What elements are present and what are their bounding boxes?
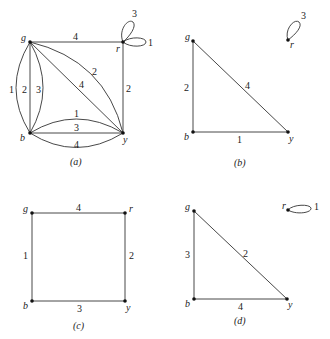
edge-g-y <box>193 41 288 132</box>
node-b <box>191 130 195 134</box>
node-label-b: b <box>185 298 190 309</box>
node-label-y: y <box>122 134 128 145</box>
caption-b: (b) <box>234 157 246 169</box>
caption-c: (c) <box>73 320 85 332</box>
node-g <box>30 211 34 215</box>
edge-g-y <box>194 211 287 299</box>
node-g <box>28 40 32 44</box>
node-label-y: y <box>125 302 131 313</box>
edge-label: 4 <box>76 202 81 213</box>
edge-label: 1 <box>23 250 28 261</box>
node-label-y: y <box>287 299 293 310</box>
caption-d: (d) <box>234 315 246 327</box>
panel-d: 3 2 4 1 g r b y (d) <box>185 200 319 327</box>
node-label-g: g <box>185 31 190 42</box>
edge-label: 2 <box>126 83 131 94</box>
node-label-r: r <box>282 200 286 211</box>
edge-label: 1 <box>148 37 153 48</box>
edge-label: 2 <box>22 84 27 95</box>
edge-label: 1 <box>314 201 319 212</box>
edge-label: 1 <box>74 108 79 119</box>
edge-label: 2 <box>184 82 189 93</box>
panel-a: 4 2 1 2 3 4 2 1 3 4 3 1 g r b y (a) <box>9 8 153 168</box>
loop-r-3 <box>287 21 300 40</box>
node-label-b: b <box>184 131 189 142</box>
edge-label: 3 <box>74 122 79 133</box>
node-label-r: r <box>290 39 294 50</box>
node-r <box>123 211 127 215</box>
loop-r-1 <box>288 205 311 213</box>
edge-label: 4 <box>74 139 79 150</box>
edge-label: 1 <box>237 134 242 145</box>
node-b <box>192 297 196 301</box>
node-label-g: g <box>21 32 26 43</box>
edge-label: 4 <box>73 31 78 42</box>
edge-label: 4 <box>238 301 243 312</box>
node-r <box>121 40 125 44</box>
node-label-b: b <box>23 300 28 311</box>
node-g <box>192 209 196 213</box>
node-b <box>30 299 34 303</box>
edge-label: 2 <box>243 248 248 259</box>
edge-label: 3 <box>36 84 41 95</box>
node-label-g: g <box>23 203 28 214</box>
node-g <box>191 39 195 43</box>
node-r <box>286 208 290 212</box>
node-label-r: r <box>129 203 133 214</box>
edge-label: 3 <box>132 8 137 19</box>
edge-label: 1 <box>9 84 14 95</box>
node-label-b: b <box>20 132 25 143</box>
panel-b: 2 4 1 3 g r b y (b) <box>184 10 306 169</box>
edge-label: 4 <box>79 79 84 90</box>
edge-label: 3 <box>301 10 306 21</box>
node-label-y: y <box>288 133 294 144</box>
node-label-r: r <box>116 43 120 54</box>
node-label-g: g <box>185 201 190 212</box>
edge-label: 4 <box>245 80 250 91</box>
panel-c: 4 1 2 3 g r b y (c) <box>23 202 134 332</box>
graph-figure: 4 2 1 2 3 4 2 1 3 4 3 1 g r b y (a) 2 4 … <box>0 0 330 339</box>
edge-label: 3 <box>185 249 190 260</box>
edge-label: 3 <box>77 303 82 314</box>
node-b <box>28 131 32 135</box>
edge-label: 2 <box>92 66 97 77</box>
edge-label: 2 <box>129 250 134 261</box>
caption-a: (a) <box>70 156 82 168</box>
